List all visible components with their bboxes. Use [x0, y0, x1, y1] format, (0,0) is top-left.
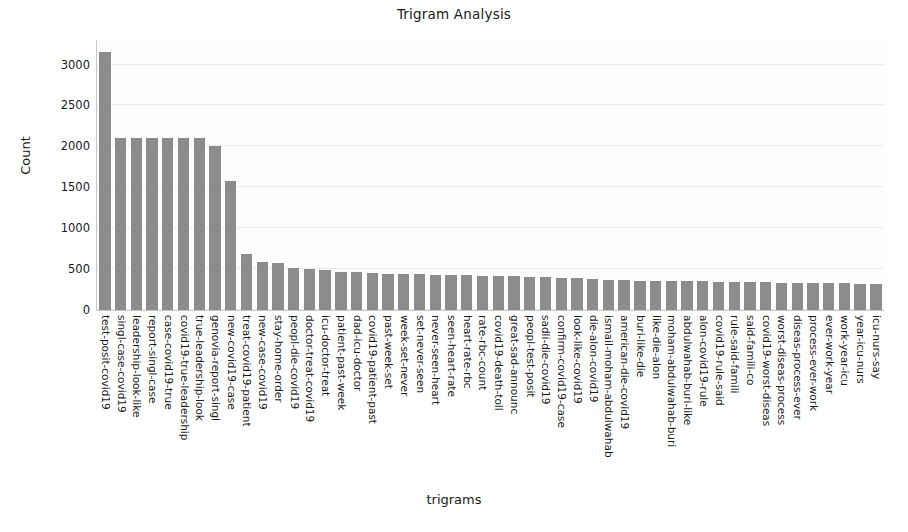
x-axis-tick-label: covid19-death-toll: [494, 315, 505, 411]
x-tick-slot: covid19-death-toll: [490, 312, 506, 482]
bar[interactable]: [178, 138, 189, 310]
bar[interactable]: [697, 281, 708, 310]
x-axis-spine: [96, 310, 884, 311]
bar[interactable]: [854, 284, 865, 311]
bar-series: [97, 40, 884, 310]
bar-slot: [333, 40, 349, 310]
bar-slot: [207, 40, 223, 310]
x-axis-tick-label: worst-diseas-process: [777, 315, 788, 425]
x-axis-tick-label: week-set-never: [399, 315, 410, 396]
bar[interactable]: [618, 280, 629, 310]
bar[interactable]: [304, 269, 315, 310]
bar-slot: [349, 40, 365, 310]
bar[interactable]: [493, 276, 504, 310]
x-tick-slot: ever-work-year: [821, 312, 837, 482]
x-tick-slot: dad-icu-doctor: [349, 312, 365, 482]
x-tick-slot: set-never-seen: [412, 312, 428, 482]
x-axis-tick-label: dad-icu-doctor: [352, 315, 363, 391]
bar[interactable]: [839, 283, 850, 310]
x-axis-tick-label: work-year-icu: [840, 315, 851, 386]
bar[interactable]: [870, 284, 881, 310]
bar[interactable]: [319, 270, 330, 310]
bar-slot: [160, 40, 176, 310]
bar[interactable]: [823, 283, 834, 310]
x-tick-slot: look-like-covid19: [569, 312, 585, 482]
x-tick-slot: worst-diseas-process: [774, 312, 790, 482]
bar[interactable]: [272, 263, 283, 310]
x-axis-tick-label: icu-nurs-say: [871, 315, 882, 379]
x-tick-slot: covid19-rule-said: [711, 312, 727, 482]
x-tick-slot: icu-nurs-say: [868, 312, 884, 482]
bar[interactable]: [146, 138, 157, 310]
x-tick-slot: report-singl-case: [144, 312, 160, 482]
bar[interactable]: [209, 146, 220, 310]
bar[interactable]: [430, 275, 441, 310]
bar[interactable]: [382, 274, 393, 310]
bar[interactable]: [650, 281, 661, 310]
bar-slot: [601, 40, 617, 310]
bar[interactable]: [131, 138, 142, 310]
x-tick-slot: covid19-patient-past: [364, 312, 380, 482]
bar-slot: [837, 40, 853, 310]
bar[interactable]: [729, 282, 740, 310]
bar[interactable]: [225, 181, 236, 310]
bar[interactable]: [587, 279, 598, 311]
x-axis-tick-labels: test-posit-covid19singl-case-covid19lead…: [97, 312, 884, 482]
bar[interactable]: [414, 274, 425, 310]
y-axis-tick-label: 2000: [30, 139, 90, 153]
x-tick-slot: week-set-never: [396, 312, 412, 482]
bar[interactable]: [776, 283, 787, 310]
bar[interactable]: [792, 283, 803, 310]
bar[interactable]: [99, 52, 110, 310]
bar[interactable]: [713, 282, 724, 310]
x-tick-slot: like-die-alon: [648, 312, 664, 482]
bar[interactable]: [115, 138, 126, 310]
bar-slot: [427, 40, 443, 310]
bar[interactable]: [603, 280, 614, 310]
bar[interactable]: [571, 278, 582, 310]
bar[interactable]: [461, 275, 472, 310]
bar[interactable]: [556, 278, 567, 310]
x-axis-tick-label: set-never-seen: [415, 315, 426, 393]
bar-slot: [868, 40, 884, 310]
x-tick-slot: buri-like-die: [632, 312, 648, 482]
bar[interactable]: [288, 268, 299, 310]
bar[interactable]: [335, 272, 346, 310]
bar[interactable]: [445, 275, 456, 310]
y-axis-tick-label: 500: [30, 262, 90, 276]
x-axis-tick-label: ever-work-year: [824, 315, 835, 394]
x-axis-tick-label: great-sad-announc: [510, 315, 521, 414]
x-tick-slot: new-covid19-case: [223, 312, 239, 482]
bar-slot: [679, 40, 695, 310]
x-axis-tick-label: look-like-covid19: [572, 315, 583, 404]
x-tick-slot: treat-covid19-patient: [239, 312, 255, 482]
plot-area: [97, 40, 884, 310]
bar[interactable]: [351, 272, 362, 310]
bar[interactable]: [540, 277, 551, 310]
bar[interactable]: [194, 138, 205, 310]
x-axis-tick-label: year-icu-nurs: [856, 315, 867, 384]
bar-slot: [286, 40, 302, 310]
bar[interactable]: [162, 138, 173, 310]
bar[interactable]: [508, 276, 519, 310]
bar[interactable]: [807, 283, 818, 310]
x-tick-slot: case-covid19-true: [160, 312, 176, 482]
bar[interactable]: [666, 281, 677, 310]
bar[interactable]: [367, 273, 378, 310]
bar[interactable]: [681, 281, 692, 310]
bar[interactable]: [634, 281, 645, 310]
bar-slot: [254, 40, 270, 310]
bar-slot: [223, 40, 239, 310]
bar[interactable]: [398, 274, 409, 310]
bar[interactable]: [477, 276, 488, 310]
x-tick-slot: ismail-moham-abdulwahab: [601, 312, 617, 482]
x-axis-tick-label: heart-rate-rbc: [462, 315, 473, 389]
bar[interactable]: [524, 277, 535, 310]
bar[interactable]: [241, 254, 252, 310]
x-tick-slot: year-icu-nurs: [852, 312, 868, 482]
bar[interactable]: [744, 282, 755, 310]
bar[interactable]: [760, 282, 771, 310]
chart-title: Trigram Analysis: [0, 6, 908, 22]
bar-slot: [128, 40, 144, 310]
bar[interactable]: [257, 262, 268, 310]
